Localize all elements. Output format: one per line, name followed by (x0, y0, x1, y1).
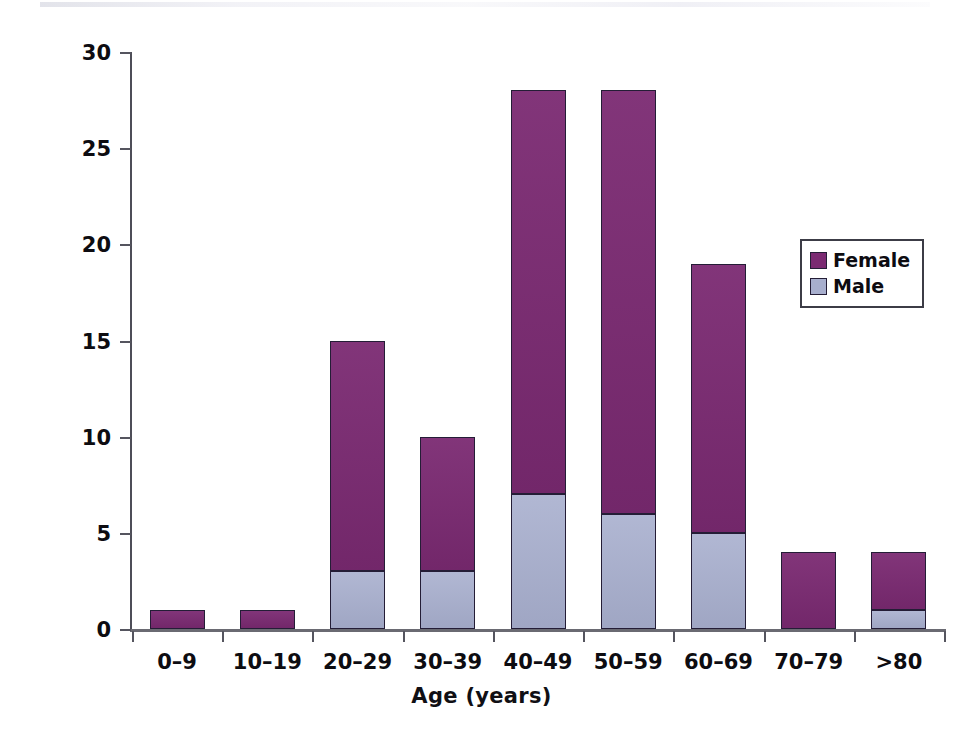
y-axis-tick-label: 15 (82, 330, 111, 354)
bar-stack[interactable] (691, 264, 746, 629)
x-axis-tick-label: 30–39 (413, 650, 482, 674)
bar-segment-female[interactable] (691, 264, 746, 533)
bar-segment-female[interactable] (601, 90, 656, 513)
y-axis-tick-label: 5 (96, 522, 111, 546)
bar-segment-female[interactable] (240, 610, 295, 629)
bar-stack[interactable] (330, 341, 385, 630)
legend-swatch-male-icon (810, 278, 827, 295)
plot-area: 051015202530 0–910–1920–2930–3940–4950–5… (132, 52, 944, 629)
bar-segment-female[interactable] (781, 552, 836, 629)
bar-segment-female[interactable] (420, 437, 475, 572)
patient-age-sex-distribution-chart: Number of patients 051015202530 0–910–19… (0, 0, 963, 730)
y-axis-tick-label: 30 (82, 41, 111, 65)
x-axis-tick-label: 40–49 (504, 650, 573, 674)
legend-item-male: Male (810, 273, 910, 299)
legend-swatch-female-icon (810, 252, 827, 269)
legend-label-female: Female (833, 249, 910, 271)
x-axis-tick-label: 70–79 (774, 650, 843, 674)
x-axis-tick (764, 631, 766, 642)
x-axis-tick (854, 631, 856, 642)
bar-segment-male[interactable] (601, 514, 656, 629)
x-axis-tick (403, 631, 405, 642)
bar-stack[interactable] (781, 552, 836, 629)
y-axis-tick-label: 0 (96, 618, 111, 642)
y-axis-tick: 25 (120, 148, 131, 150)
y-axis-tick: 30 (120, 52, 131, 54)
bar-stack[interactable] (511, 90, 566, 629)
chart-legend: Female Male (800, 239, 924, 308)
y-axis-tick: 5 (120, 533, 131, 535)
x-axis-tick-label: 10–19 (233, 650, 302, 674)
bar-stack[interactable] (601, 90, 656, 629)
x-axis-tick (312, 631, 314, 642)
x-axis-tick (222, 631, 224, 642)
bar-segment-female[interactable] (330, 341, 385, 572)
bar-stack[interactable] (240, 610, 295, 629)
bar-segment-female[interactable] (511, 90, 566, 494)
bar-stack[interactable] (871, 552, 926, 629)
bar-segment-male[interactable] (330, 571, 385, 629)
x-axis-tick (493, 631, 495, 642)
bar-stack[interactable] (150, 610, 205, 629)
y-axis-tick-label: 20 (82, 233, 111, 257)
x-axis-tick (673, 631, 675, 642)
legend-label-male: Male (833, 275, 884, 297)
y-axis-tick-label: 10 (82, 426, 111, 450)
y-axis-tick: 20 (120, 244, 131, 246)
bar-segment-male[interactable] (691, 533, 746, 629)
bar-segment-female[interactable] (150, 610, 205, 629)
x-axis-tick (583, 631, 585, 642)
y-axis-tick: 10 (120, 437, 131, 439)
x-axis-line (130, 629, 946, 632)
y-axis-tick: 15 (120, 341, 131, 343)
bar-segment-male[interactable] (420, 571, 475, 629)
y-axis-tick-label: 25 (82, 137, 111, 161)
x-axis-tick (132, 631, 134, 642)
bar-stack[interactable] (420, 437, 475, 629)
bar-segment-female[interactable] (871, 552, 926, 610)
x-axis-tick-label: >80 (875, 650, 922, 674)
x-axis-tick-label: 50–59 (594, 650, 663, 674)
x-axis-tick-label: 60–69 (684, 650, 753, 674)
x-axis-title: Age (years) (0, 684, 963, 708)
y-axis-tick: 0 (120, 629, 131, 631)
x-axis-tick (944, 631, 946, 642)
bar-segment-male[interactable] (511, 494, 566, 629)
x-axis-tick-label: 20–29 (323, 650, 392, 674)
bar-segment-male[interactable] (871, 610, 926, 629)
legend-item-female: Female (810, 247, 910, 273)
x-axis-tick-label: 0–9 (157, 650, 197, 674)
